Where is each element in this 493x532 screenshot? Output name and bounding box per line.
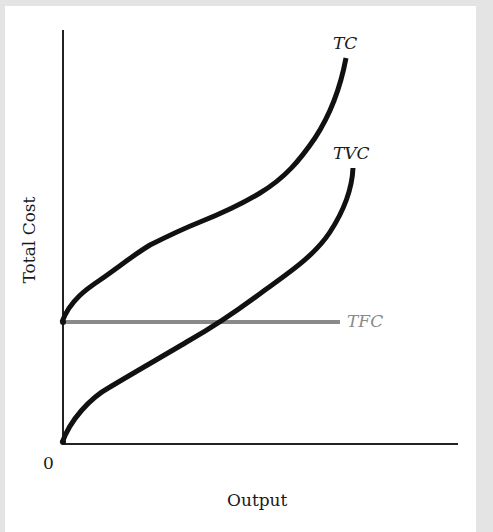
y-axis-label: Total Cost [19, 197, 39, 284]
tc-curve [62, 58, 346, 322]
tc-label: TC [333, 33, 357, 53]
tvc-label: TVC [333, 143, 370, 163]
tvc-start-point [60, 439, 66, 445]
tvc-curve [62, 168, 353, 443]
x-axis-label: Output [227, 490, 287, 510]
tc-start-point [60, 319, 66, 325]
cost-curves-chart [0, 0, 493, 532]
origin-label: 0 [43, 453, 54, 473]
tfc-label: TFC [347, 311, 383, 331]
